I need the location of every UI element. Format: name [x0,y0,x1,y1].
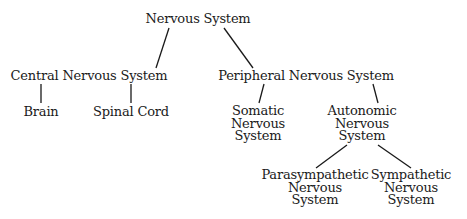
node-central-nervous-system: Central Nervous System [11,70,168,83]
edge-pns-somatic [259,84,264,103]
node-label: Central Nervous System [11,70,168,83]
node-label-line: System [231,130,285,143]
node-label-line: System [371,194,451,207]
edge-autonomic-symp [378,145,411,168]
node-nervous-system: Nervous System [146,13,251,26]
node-label: Brain [23,106,58,119]
node-peripheral-nervous-system: Peripheral Nervous System [218,70,394,83]
nervous-system-diagram: Nervous System Central Nervous System Pe… [0,0,467,219]
node-spinal-cord: Spinal Cord [93,106,169,119]
edge-autonomic-para [316,145,347,168]
node-label: Nervous System [146,13,251,26]
node-autonomic-nervous-system: Autonomic Nervous System [328,105,397,143]
node-parasympathetic-nervous-system: Parasympathetic Nervous System [261,169,368,207]
node-label: Peripheral Nervous System [218,70,394,83]
node-brain: Brain [23,106,58,119]
edge-pns-autonomic [373,84,378,103]
edge-root-cns [156,28,169,68]
node-sympathetic-nervous-system: Sympathetic Nervous System [371,169,451,207]
edge-root-pns [224,28,253,68]
node-label-line: System [328,130,397,143]
node-somatic-nervous-system: Somatic Nervous System [231,105,285,143]
node-label: Spinal Cord [93,106,169,119]
node-label-line: System [261,194,368,207]
